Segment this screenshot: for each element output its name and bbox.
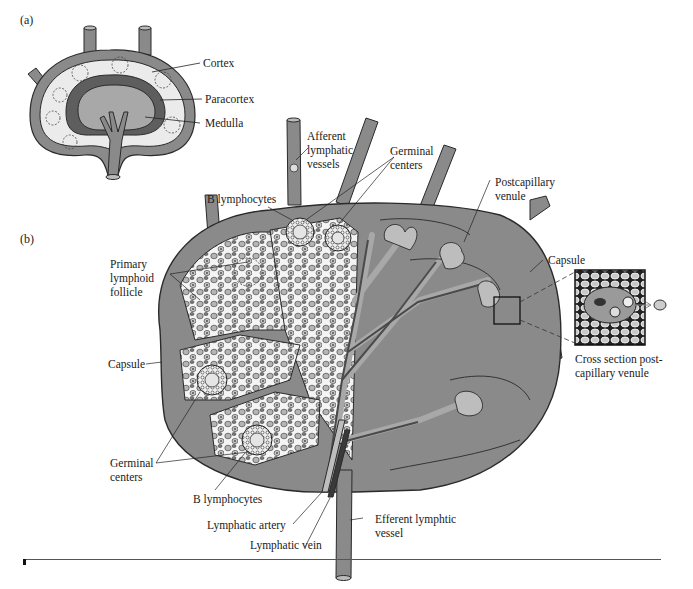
label-medulla: Medulla [205,116,243,130]
label-primary-lymphoid-follicle: Primary lymphoid follicle [110,257,154,299]
label-paracortex: Paracortex [205,92,254,106]
lymph-node-figure: (a) (b) Cortex Paracortex Medulla Affere… [0,0,693,589]
label-germinal-centers-bottom: Germinal centers [110,456,153,484]
label-b-lymphocytes-top: B lymphocytes [207,192,276,206]
label-b-lymphocytes-bottom: B lymphocytes [193,492,262,506]
panel-b-tag: (b) [20,232,34,247]
divider-marker [23,559,26,565]
diagram-artwork [0,0,693,589]
panel-a-node [28,26,202,180]
panel-a-tag: (a) [20,13,33,28]
label-lymphatic-vein: Lymphatic vein [250,538,322,552]
label-cross-section-venule: Cross section post- capillary venule [575,352,663,380]
label-lymphatic-artery: Lymphatic artery [207,518,286,532]
figure-divider [24,559,661,560]
label-efferent-vessel: Efferent lymphtic vessel [375,512,456,540]
label-capsule-left: Capsule [108,357,145,371]
label-afferent-vessels: Afferent lymphatic vessels [307,129,353,171]
label-postcapillary-venule: Postcapillary venule [495,175,555,203]
label-germinal-centers-top: Germinal centers [390,144,433,172]
cross-section-inset [575,270,666,345]
label-cortex: Cortex [203,56,234,70]
label-capsule-right: Capsule [548,253,585,267]
